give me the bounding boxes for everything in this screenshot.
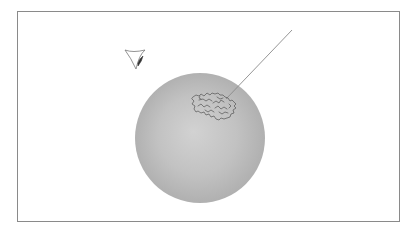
diagram-canvas: [0, 0, 419, 238]
eye-icon: [125, 50, 145, 69]
ray-line: [226, 30, 292, 99]
sphere: [135, 73, 265, 203]
